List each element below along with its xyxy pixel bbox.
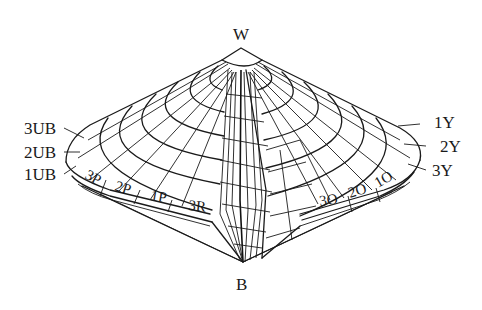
label-1y: 1Y: [434, 113, 455, 132]
solid-outline: [66, 48, 421, 262]
rim-label-3p: 3P: [83, 167, 105, 189]
color-solid-diagram: W B 3UB 2UB 1UB 1Y 2Y 3Y 3P 2P 1P 3R 3O …: [0, 0, 482, 310]
rim-label-3r: 3R: [188, 197, 207, 215]
rim-label-3o: 3O: [318, 191, 339, 209]
label-white-apex: W: [233, 25, 250, 44]
leader-lines: [64, 124, 426, 174]
label-black-apex: B: [236, 275, 247, 294]
label-3ub: 3UB: [24, 119, 56, 138]
label-1ub: 1UB: [24, 165, 56, 184]
rim-label-1p: 1P: [149, 187, 167, 206]
label-3y: 3Y: [432, 161, 453, 180]
label-2ub: 2UB: [24, 143, 56, 162]
label-2y: 2Y: [440, 137, 461, 156]
